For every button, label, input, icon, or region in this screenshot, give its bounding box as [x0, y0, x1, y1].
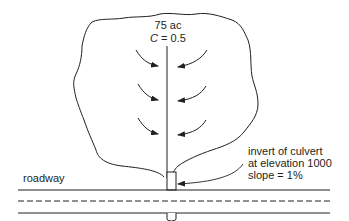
watershed-culvert-diagram: 75 ac C = 0.5 invert of culvert at eleva…: [0, 0, 349, 221]
roadway-label: roadway: [23, 172, 65, 184]
flow-arrow-right-3: [178, 120, 206, 135]
flow-arrow-left-3: [138, 118, 158, 134]
culvert-note-line3: slope = 1%: [248, 169, 303, 181]
culvert-leader: [178, 164, 243, 184]
culvert-note-line1: invert of culvert: [248, 145, 323, 157]
flow-arrow-right-1: [178, 50, 207, 67]
runoff-coefficient-label: C = 0.5: [138, 32, 198, 44]
coefficient-symbol: C: [150, 32, 158, 44]
flow-arrow-left-2: [138, 84, 158, 100]
culvert-outlet: [167, 213, 176, 221]
culvert-inlet: [167, 172, 176, 190]
culvert-note-line2: at elevation 1000: [248, 157, 332, 169]
flow-arrow-right-2: [178, 86, 206, 101]
flow-arrow-left-1: [136, 50, 158, 66]
area-label: 75 ac: [145, 19, 191, 31]
coefficient-value: = 0.5: [158, 32, 186, 44]
